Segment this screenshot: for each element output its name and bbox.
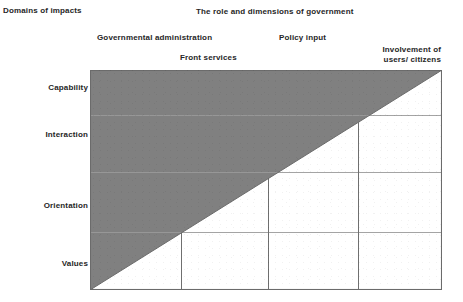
column-label-involvement-line2: users/ citizens [347, 55, 441, 65]
column-label-involvement-of-users-citizens: Involvement of users/ citizens [347, 45, 441, 65]
column-label-front-services: Front services [180, 53, 237, 63]
diagram-svg [90, 70, 442, 290]
figure-container: Domains of impacts The role and dimensio… [0, 0, 463, 302]
domains-of-impacts-label: Domains of impacts [3, 6, 82, 16]
column-label-involvement-line1: Involvement of [347, 45, 441, 55]
row-label-interaction: Interaction [45, 130, 88, 140]
figure-title: The role and dimensions of government [196, 7, 354, 17]
row-label-values: Values [62, 259, 88, 269]
plot-area [90, 70, 442, 290]
column-label-policy-input: Policy input [279, 33, 326, 43]
row-label-capability: Capability [48, 83, 88, 93]
column-label-governmental-administration: Governmental administration [97, 33, 212, 43]
row-label-orientation: Orientation [44, 201, 88, 211]
